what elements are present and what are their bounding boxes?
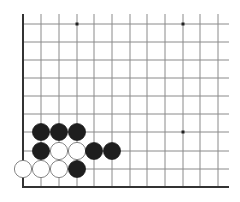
hoshi-point [182,23,185,26]
board-edges [22,14,229,188]
black-stone [32,123,49,140]
black-stone [50,123,67,140]
white-stone [14,160,31,177]
go-board [0,0,240,202]
white-stone [50,160,67,177]
white-stone [50,142,67,159]
black-stone [68,160,85,177]
grid-lines [23,14,229,187]
hoshi-point [182,131,185,134]
black-stone [68,123,85,140]
black-stone [103,142,120,159]
white-stone [68,142,85,159]
hoshi-point [76,23,79,26]
white-stone [32,160,49,177]
black-stone [85,142,102,159]
black-stone [32,142,49,159]
